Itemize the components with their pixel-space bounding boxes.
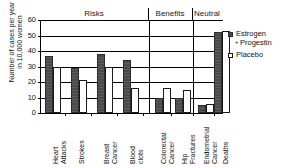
y-tick-label-40: 40 bbox=[20, 47, 36, 55]
x-label-hip-fractures: Hip Fractures bbox=[181, 134, 196, 164]
legend-item-estrogen-progestin: Estrogen + Progestin bbox=[228, 30, 288, 47]
y-tick-mark-50 bbox=[38, 36, 41, 37]
bar-estrogen-colorectal-cancer bbox=[155, 98, 163, 114]
x-label-colorectal-cancer: Colorectal Cancer bbox=[160, 132, 175, 164]
y-tick-mark-0 bbox=[38, 113, 41, 114]
y-tick-label-10: 10 bbox=[20, 94, 36, 102]
y-axis-title-line1: Number of cases per year bbox=[8, 2, 15, 83]
y-tick-label-0: 0 bbox=[20, 109, 36, 117]
x-label-deaths: Deaths bbox=[222, 142, 230, 164]
x-label-strokes: Strokes bbox=[78, 140, 86, 164]
bar-estrogen-deaths bbox=[214, 32, 222, 113]
y-tick-label-60: 60 bbox=[20, 16, 36, 24]
plot-area bbox=[40, 20, 223, 114]
bar-estrogen-heart-attacks bbox=[45, 56, 53, 113]
y-tick-mark-30 bbox=[38, 67, 41, 68]
bar-chart: Risks Benefits Neutral Number of cases p… bbox=[0, 0, 288, 168]
y-tick-mark-40 bbox=[38, 51, 41, 52]
gridline-50 bbox=[41, 36, 223, 37]
bar-placebo-heart-attacks bbox=[53, 67, 61, 114]
y-tick-mark-20 bbox=[38, 82, 41, 83]
gridline-20 bbox=[41, 82, 223, 83]
legend: Estrogen + Progestin Placebo bbox=[228, 30, 288, 63]
y-tick-label-50: 50 bbox=[20, 32, 36, 40]
plot-group-divider-2 bbox=[193, 20, 194, 113]
legend-label-placebo: Placebo bbox=[228, 51, 288, 60]
legend-plus-sign: + bbox=[235, 39, 239, 45]
gridline-30 bbox=[41, 67, 223, 68]
bar-estrogen-strokes bbox=[71, 68, 79, 113]
legend-item-placebo: Placebo bbox=[228, 51, 288, 60]
y-tick-mark-60 bbox=[38, 20, 41, 21]
bar-estrogen-endometrial-cancer bbox=[198, 105, 206, 113]
plot-group-divider-1 bbox=[149, 20, 150, 113]
legend-swatch-estrogen-icon bbox=[228, 32, 233, 37]
bar-estrogen-breast-cancer bbox=[97, 54, 105, 113]
y-tick-mark-10 bbox=[38, 98, 41, 99]
bar-placebo-endometrial-cancer bbox=[206, 104, 214, 113]
y-axis-title: Number of cases per year in 10,000 women bbox=[8, 0, 24, 88]
x-label-breast-cancer: Breast Cancer bbox=[103, 141, 118, 164]
x-label-heart-attacks: Heart Attacks bbox=[52, 141, 67, 164]
x-axis-labels: Heart Attacks Strokes Breast Cancer Bloo… bbox=[40, 116, 222, 168]
x-label-blood-clots: Blood clots bbox=[129, 146, 144, 164]
group-label-benefits: Benefits bbox=[148, 8, 192, 20]
gridline-40 bbox=[41, 51, 223, 52]
bar-placebo-hip-fractures bbox=[183, 90, 191, 113]
group-label-risks: Risks bbox=[40, 8, 148, 20]
bar-placebo-colorectal-cancer bbox=[163, 88, 171, 113]
gridline-60 bbox=[41, 20, 223, 21]
y-tick-label-30: 30 bbox=[20, 63, 36, 71]
group-header-band: Risks Benefits Neutral bbox=[40, 8, 222, 20]
y-tick-label-20: 20 bbox=[20, 78, 36, 86]
bar-estrogen-blood-clots bbox=[123, 60, 131, 113]
group-label-neutral: Neutral bbox=[192, 8, 222, 20]
legend-swatch-placebo-icon bbox=[228, 53, 233, 58]
bar-placebo-breast-cancer bbox=[105, 67, 113, 114]
x-label-endometrial-cancer: Endometrial Cancer bbox=[203, 127, 218, 164]
bar-placebo-strokes bbox=[79, 80, 87, 113]
bar-estrogen-hip-fractures bbox=[175, 98, 183, 114]
bar-placebo-blood-clots bbox=[131, 88, 139, 113]
